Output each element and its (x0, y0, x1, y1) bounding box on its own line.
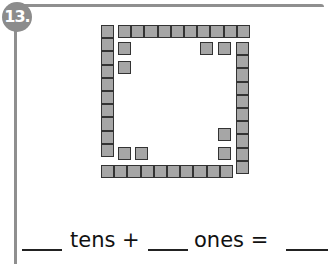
tens-label: tens + (70, 228, 140, 252)
ones-cube (118, 42, 131, 55)
ones-cube (218, 147, 231, 160)
ones-cube (118, 147, 131, 160)
ones-cube (118, 61, 131, 74)
ones-label: ones = (194, 228, 268, 252)
tens-rod-bottom (101, 165, 233, 178)
equation-row: tens + ones = (22, 228, 330, 254)
tens-rod-top (118, 25, 250, 38)
tens-rod-left (101, 25, 114, 157)
ones-cube (218, 128, 231, 141)
tens-answer-blank[interactable] (22, 249, 62, 251)
base-ten-blocks-figure (0, 0, 330, 264)
ones-cube (135, 147, 148, 160)
ones-cube (218, 42, 231, 55)
ones-answer-blank[interactable] (148, 249, 188, 251)
total-answer-blank[interactable] (286, 249, 328, 251)
tens-rod-right (236, 42, 249, 174)
ones-cube (200, 42, 213, 55)
